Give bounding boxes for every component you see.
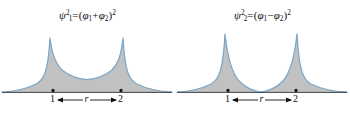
antibonding-axis-labels: 1 r 2 bbox=[175, 93, 350, 109]
panel-antibonding: ψ22=(φ1−φ2)2 1 r 2 bbox=[175, 0, 350, 115]
paren-superscript: 2 bbox=[287, 9, 291, 17]
tick-label-1: 1 bbox=[225, 93, 230, 104]
paren-superscript: 2 bbox=[112, 9, 116, 17]
psi-subscript: 2 bbox=[244, 15, 248, 23]
psi-subscript: 1 bbox=[69, 15, 73, 23]
tick-label-2: 2 bbox=[293, 93, 298, 104]
antibonding-density-area-left bbox=[177, 34, 261, 92]
nucleus-marker-1 bbox=[226, 89, 229, 92]
tick-label-2: 2 bbox=[118, 93, 123, 104]
panel-bonding: ψ21=(φ1+φ2)2 1 r 2 bbox=[0, 0, 175, 115]
psi-symbol: ψ bbox=[234, 9, 241, 21]
distance-label-r: r bbox=[83, 93, 90, 104]
psi-symbol: ψ bbox=[59, 9, 66, 21]
nucleus-marker-2 bbox=[294, 89, 297, 92]
antibonding-formula: ψ22=(φ1−φ2)2 bbox=[175, 9, 350, 21]
distance-label-r: r bbox=[258, 93, 265, 104]
bonding-axis-labels: 1 r 2 bbox=[0, 93, 175, 109]
tick-label-1: 1 bbox=[50, 93, 55, 104]
psi-term: ψ22 bbox=[234, 9, 247, 21]
antibonding-density-area-right bbox=[261, 34, 347, 92]
nucleus-marker-1 bbox=[51, 89, 54, 92]
bonding-formula: ψ21=(φ1+φ2)2 bbox=[0, 9, 175, 21]
bonding-density-area bbox=[2, 38, 172, 92]
nucleus-marker-2 bbox=[119, 89, 122, 92]
psi-term: ψ21 bbox=[59, 9, 72, 21]
orbital-density-figure: ψ21=(φ1+φ2)2 1 r 2 bbox=[0, 0, 350, 115]
